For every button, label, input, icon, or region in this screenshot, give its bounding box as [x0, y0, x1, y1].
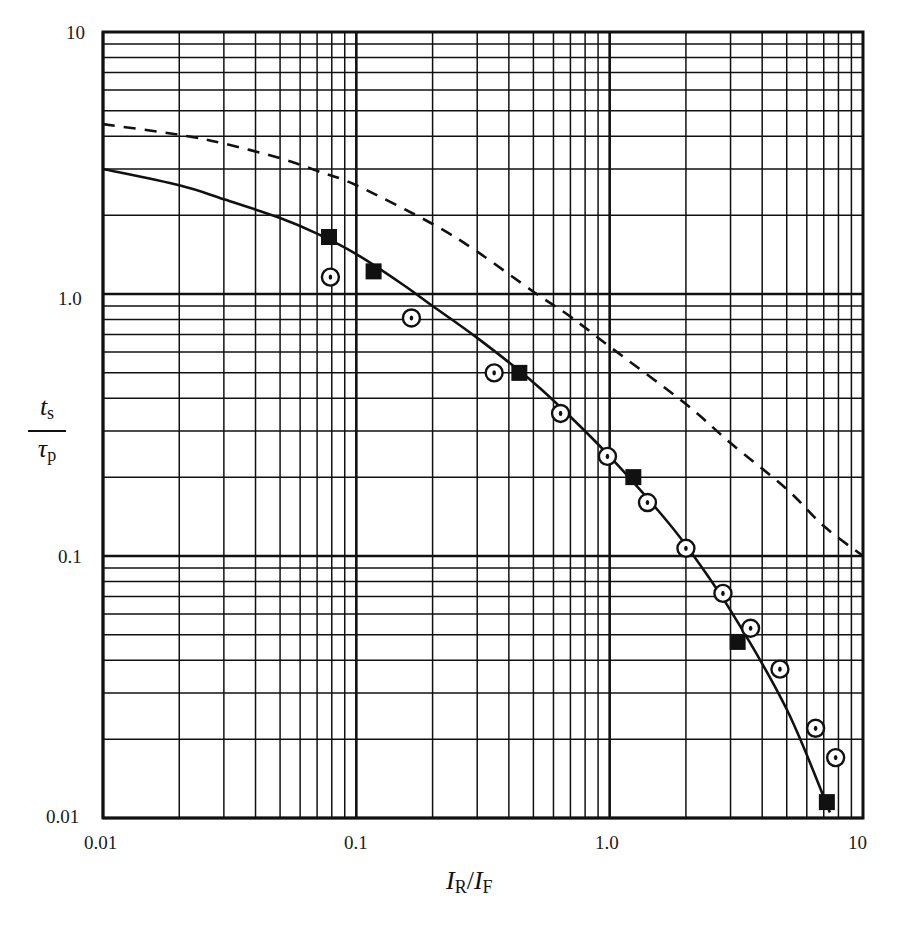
circle-dot-marker — [827, 749, 844, 766]
y-tick-label: 1.0 — [58, 288, 82, 310]
circle-dot-marker — [714, 585, 731, 602]
x-tick-label: 0.1 — [344, 832, 368, 854]
minor-gridlines — [103, 32, 863, 818]
circle-dot-marker — [807, 720, 824, 737]
square-marker — [366, 263, 382, 279]
square-marker — [625, 469, 641, 485]
solid-curve — [103, 169, 830, 812]
circle-dot-marker — [322, 269, 339, 286]
square-marker — [730, 634, 746, 650]
circle-dot-marker — [599, 448, 616, 465]
square-marker — [819, 794, 835, 810]
x-axis-label: IR/IF — [446, 866, 493, 898]
y-tick-label: 0.01 — [46, 806, 79, 828]
square-marker — [511, 365, 527, 381]
circle-dot-marker — [771, 661, 788, 678]
major-gridlines — [103, 32, 863, 818]
circle-dot-marker — [403, 309, 420, 326]
markers — [321, 229, 844, 810]
dashed-curve — [103, 124, 863, 556]
circle-dot-marker — [486, 364, 503, 381]
plot-area — [0, 0, 900, 929]
plot-frame — [103, 32, 863, 818]
y-axis-label: ts τp — [22, 392, 72, 470]
chart: 10 1.0 0.1 0.01 0.01 0.1 1.0 10 ts τp IR… — [0, 0, 900, 929]
y-tick-label: 10 — [66, 22, 85, 44]
y-tick-label: 0.1 — [58, 546, 82, 568]
fraction-bar — [28, 430, 66, 432]
circle-dot-marker — [677, 540, 694, 557]
curves — [103, 124, 863, 812]
circle-dot-marker — [742, 620, 759, 637]
x-tick-label: 10 — [848, 832, 867, 854]
x-tick-label: 0.01 — [84, 832, 117, 854]
circle-dot-marker — [639, 494, 656, 511]
square-marker — [321, 229, 337, 245]
x-tick-label: 1.0 — [595, 832, 619, 854]
circle-dot-marker — [552, 405, 569, 422]
